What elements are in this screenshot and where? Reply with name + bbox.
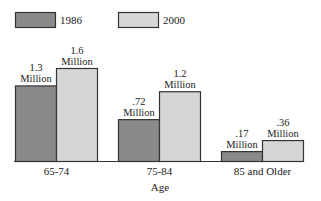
legend-label-1986: 1986 xyxy=(60,14,83,26)
legend-label-2000: 2000 xyxy=(163,14,186,26)
x-tick-label: 65-74 xyxy=(44,165,70,177)
legend-swatch-1986 xyxy=(16,13,56,28)
data-label-value: 1.6 xyxy=(70,45,83,56)
data-label-value: 1.3 xyxy=(29,62,42,73)
bar-1986-75-84 xyxy=(119,120,160,162)
data-label-unit: Million xyxy=(267,128,299,139)
data-label-unit: Million xyxy=(123,107,155,118)
bar-1986-85-and-older xyxy=(222,152,263,162)
data-label-unit: Million xyxy=(61,56,93,67)
data-label-unit: Million xyxy=(20,73,52,84)
x-tick-label: 85 and Older xyxy=(234,165,292,177)
data-label-value: .17 xyxy=(235,128,248,139)
data-label-value: .36 xyxy=(276,117,289,128)
legend-swatch-2000 xyxy=(119,13,159,28)
bar-1986-65-74 xyxy=(16,86,57,162)
data-label-value: .72 xyxy=(132,96,145,107)
data-label-value: 1.2 xyxy=(173,68,186,79)
data-label-unit: Million xyxy=(226,139,258,150)
bar-2000-75-84 xyxy=(160,92,201,162)
bar-2000-65-74 xyxy=(57,69,98,162)
x-tick-labels: 65-7475-8485 and Older xyxy=(44,165,292,177)
data-label-unit: Million xyxy=(164,79,196,90)
bar-chart: 19862000 1.3Million1.6Million.72Million1… xyxy=(0,0,321,201)
x-tick-label: 75-84 xyxy=(147,165,173,177)
bar-2000-85-and-older xyxy=(263,141,304,162)
x-axis-label: Age xyxy=(151,181,169,193)
bars xyxy=(16,69,304,162)
legend: 19862000 xyxy=(16,13,186,28)
